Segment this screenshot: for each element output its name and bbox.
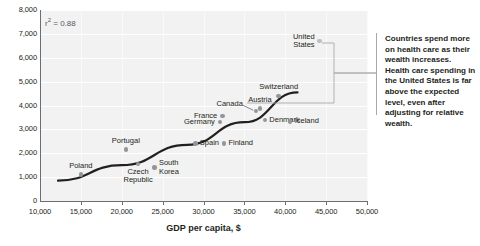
x-axis-tick-mark [367, 201, 368, 205]
data-point[interactable] [136, 162, 141, 167]
gridline-vertical [367, 10, 368, 201]
data-point[interactable] [317, 39, 322, 44]
data-point[interactable] [276, 94, 281, 99]
data-point[interactable] [79, 172, 84, 177]
y-axis-tick-label: 3,000 [1, 125, 37, 133]
scatter-chart-figure: 01,0002,0003,0004,0005,0006,0007,0008,00… [0, 0, 480, 246]
data-point[interactable] [152, 165, 157, 170]
data-point-label: Iceland [295, 117, 319, 126]
r-squared-exponent: 2 [48, 17, 51, 23]
data-point[interactable] [193, 141, 198, 146]
x-axis-tick-label: 10,000 [20, 207, 60, 216]
x-axis-tick-label: 20,000 [102, 207, 142, 216]
y-axis-tick-label: 5,000 [1, 78, 37, 86]
x-axis-tick-mark [285, 201, 286, 205]
y-axis-line [40, 10, 41, 201]
x-axis-tick-label: 30,000 [184, 207, 224, 216]
data-point[interactable] [124, 147, 129, 152]
r-squared-annotation: r2 = 0.88 [45, 17, 76, 28]
gridline-horizontal [40, 129, 367, 130]
x-axis-tick-mark [326, 201, 327, 205]
y-axis-tick-label: 8,000 [1, 6, 37, 14]
y-axis-tick-label: 7,000 [1, 30, 37, 38]
plot-area: PolandPortugalCzech RepublicSouth KoreaS… [40, 10, 367, 201]
gridline-horizontal [40, 10, 367, 11]
x-axis-tick-label: 40,000 [265, 207, 305, 216]
x-axis-tick-mark [81, 201, 82, 205]
y-axis-tick-label: 2,000 [1, 149, 37, 157]
data-point[interactable] [222, 141, 227, 146]
data-point-label: South Korea [159, 159, 179, 176]
data-point-label: Finland [228, 139, 253, 148]
gridline-horizontal [40, 153, 367, 154]
x-axis-tick-label: 50,000 [347, 207, 387, 216]
y-axis-tick-label: 4,000 [1, 102, 37, 110]
x-axis-title: GDP per capita, $ [40, 223, 367, 233]
data-point-label: Spain [200, 139, 219, 148]
x-axis-tick-mark [163, 201, 164, 205]
r-squared-value: = 0.88 [53, 19, 75, 28]
y-axis-tick-label: 6,000 [1, 54, 37, 62]
y-axis-tick-label: 0 [1, 197, 37, 205]
x-axis-tick-mark [122, 201, 123, 205]
annotation-divider [376, 33, 377, 115]
x-axis-tick-label: 45,000 [306, 207, 346, 216]
annotation-text: Countries spend more on health care as t… [385, 34, 477, 129]
data-point-label: France [138, 112, 217, 121]
x-axis-tick-mark [244, 201, 245, 205]
x-axis-tick-label: 35,000 [224, 207, 264, 216]
gridline-horizontal [40, 58, 367, 59]
x-axis-tick-label: 15,000 [61, 207, 101, 216]
gridline-horizontal [40, 177, 367, 178]
x-axis-tick-label: 25,000 [143, 207, 183, 216]
gridline-horizontal [40, 34, 367, 35]
data-point[interactable] [263, 118, 268, 123]
x-axis-tick-mark [204, 201, 205, 205]
data-point-label: United States [236, 33, 315, 50]
data-point[interactable] [218, 120, 223, 125]
data-point-label: Portugal [86, 137, 166, 146]
data-point-label: Switzerland [239, 83, 319, 92]
data-point-label: Austria [220, 96, 300, 105]
data-point[interactable] [220, 114, 225, 119]
gridline-vertical [326, 10, 327, 201]
data-point[interactable] [258, 106, 263, 111]
y-axis-tick-label: 1,000 [1, 173, 37, 181]
